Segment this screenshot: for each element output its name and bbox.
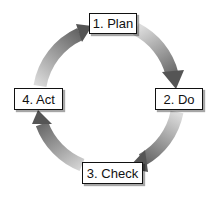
- arrow-act-to-plan: [40, 24, 92, 86]
- step-plan: 1. Plan: [89, 13, 137, 34]
- step-act: 4. Act: [14, 88, 63, 110]
- arrow-plan-to-do: [136, 29, 184, 89]
- step-do: 2. Do: [155, 88, 203, 110]
- arrow-check-to-act: [32, 110, 82, 165]
- step-check: 3. Check: [82, 162, 143, 184]
